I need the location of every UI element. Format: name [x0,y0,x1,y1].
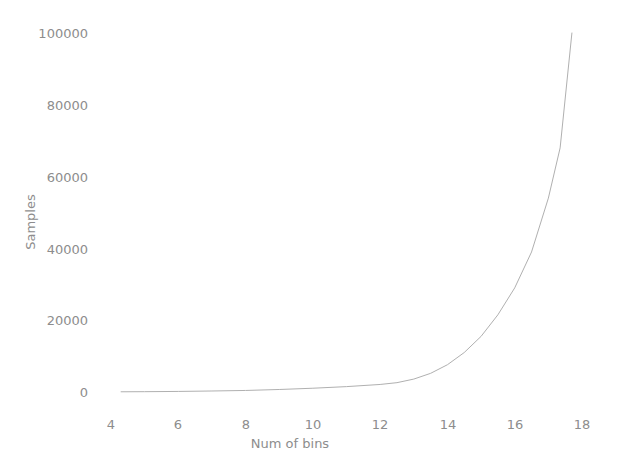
y-tick-label: 80000 [20,99,88,112]
y-tick-label: 60000 [20,171,88,184]
x-tick-label: 12 [372,418,389,431]
y-tick-label: 20000 [20,314,88,327]
x-tick-label: 6 [174,418,182,431]
x-tick-label: 14 [440,418,457,431]
x-tick-label: 18 [574,418,591,431]
x-tick-label: 10 [305,418,322,431]
plot-area [0,0,624,475]
x-axis-title: Num of bins [251,437,329,450]
x-tick-label: 8 [242,418,250,431]
x-tick-label: 16 [507,418,524,431]
y-tick-label: 100000 [20,27,88,40]
x-tick-label: 4 [107,418,115,431]
y-axis-title: Samples [24,194,37,250]
y-tick-label: 0 [20,386,88,399]
data-series-line [121,33,572,392]
chart-figure: 100000 80000 60000 40000 20000 0 4 6 8 1… [0,0,624,475]
